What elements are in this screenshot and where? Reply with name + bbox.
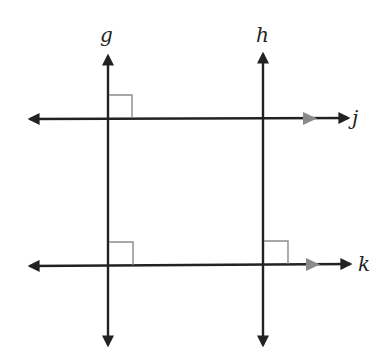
parallel-marker-j — [303, 112, 317, 125]
right-angle-marker-gk — [109, 242, 133, 265]
label-h: h — [256, 23, 269, 47]
parallel-marker-k — [306, 258, 320, 271]
label-k: k — [358, 252, 370, 276]
right-angle-marker-gj — [109, 95, 132, 118]
label-g: g — [100, 23, 113, 47]
label-j: j — [348, 106, 358, 130]
geometry-diagram: g h j k — [0, 0, 383, 361]
line-j — [30, 112, 348, 125]
line-k — [30, 258, 350, 271]
right-angle-marker-hk — [264, 241, 288, 264]
